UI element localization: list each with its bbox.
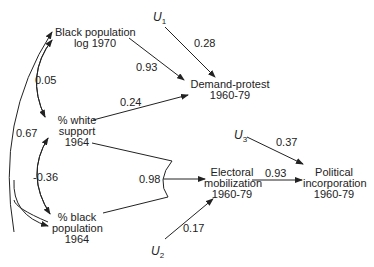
node-electoral-mobilization: Electoral mobilization 1960-79 [204,167,260,200]
path-diagram: Black population log 1970 % white suppor… [0,0,374,267]
error-term-u3: U3 [234,128,247,144]
coef-corr-white-blackpct: -0.36 [33,172,58,183]
node-political-incorporation: Political incorporation 1960-79 [303,167,365,200]
coef-u3-political: 0.37 [276,137,297,148]
node-black-percentage: % black population 1964 [52,212,102,245]
coef-u2-electoral: 0.17 [183,223,204,234]
coef-u1-demand: 0.28 [194,38,215,49]
coef-electoral-political: 0.93 [265,168,286,179]
coef-blackpop-demand: 0.93 [136,62,157,73]
coef-combined-electoral: 0.98 [139,174,160,185]
coef-corr-blackpop-blackpct: 0.67 [16,128,37,139]
error-term-u2: U2 [151,244,164,260]
node-demand-protest: Demand-protest 1960-79 [190,79,270,101]
node-white-support: % white support 1964 [52,115,102,148]
node-black-population: Black population log 1970 [55,27,135,49]
coef-white-demand: 0.24 [120,97,141,108]
coef-corr-blackpop-white: 0.05 [35,75,56,86]
error-term-u1: U1 [153,10,166,26]
